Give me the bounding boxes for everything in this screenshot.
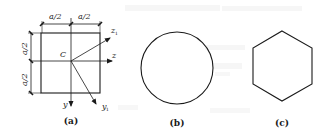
cross-section-figure: a/2 a/2 a/2 a/2 C z z 1 y y 1 (a) (b) (c… bbox=[0, 0, 328, 139]
panel-a-square-section bbox=[28, 18, 112, 106]
square-outline bbox=[41, 33, 100, 93]
dim-label-top-left: a/2 bbox=[49, 12, 62, 21]
y1-axis-label: y 1 bbox=[101, 102, 109, 112]
svg-text:1: 1 bbox=[106, 107, 109, 112]
y-axis-label: y bbox=[62, 100, 68, 109]
dim-label-left-top: a/2 bbox=[20, 42, 29, 55]
svg-text:1: 1 bbox=[115, 31, 118, 36]
dim-label-top-right: a/2 bbox=[78, 12, 91, 21]
y1-axis bbox=[71, 61, 96, 104]
panel-a-caption: (a) bbox=[64, 116, 78, 126]
z1-axis bbox=[71, 38, 110, 61]
z1-axis-label: z 1 bbox=[110, 26, 118, 36]
centroid-label: C bbox=[60, 50, 66, 59]
panel-c-hexagon-section bbox=[253, 31, 312, 101]
panel-b-caption: (b) bbox=[170, 118, 185, 128]
dim-label-left-bottom: a/2 bbox=[20, 73, 29, 86]
z-axis-label: z bbox=[111, 51, 117, 60]
panel-c-caption: (c) bbox=[275, 118, 289, 128]
panel-b-circle-section bbox=[141, 32, 213, 104]
